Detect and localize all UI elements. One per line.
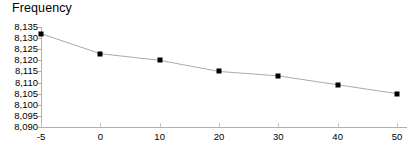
plot-area: 8,1358,1308,1258,1208,1158,1108,1058,100… [0, 0, 409, 157]
data-point-marker [157, 58, 162, 63]
data-point-marker [217, 69, 222, 74]
data-point-marker [39, 31, 44, 36]
data-point-marker [335, 82, 340, 87]
data-point-marker [98, 51, 103, 56]
series-line [0, 0, 409, 157]
data-point-marker [395, 91, 400, 96]
data-point-marker [276, 73, 281, 78]
frequency-line-chart: Frequency 8,1358,1308,1258,1208,1158,110… [0, 0, 409, 157]
